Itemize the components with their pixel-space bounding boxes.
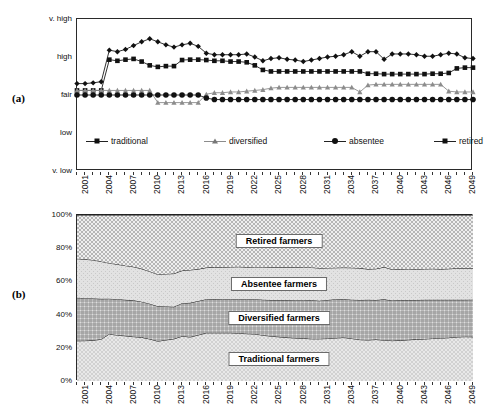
chart-a-xlabel-2040: 2040	[395, 175, 405, 194]
legend-item-diversified[interactable]: diversified	[204, 136, 267, 146]
chart-b-xtick	[440, 382, 441, 385]
chart-a-marker	[187, 41, 192, 46]
chart-a-marker	[147, 36, 152, 41]
chart-b-xtick	[124, 382, 125, 385]
chart-a-marker	[293, 57, 298, 62]
legend-item-retired[interactable]: retired	[434, 136, 483, 146]
legend-marker-diamond-icon	[434, 141, 456, 142]
chart-a-xtick	[270, 172, 271, 175]
chart-a-marker	[74, 81, 79, 86]
band-label-traditional: Traditional farmers	[229, 352, 330, 366]
chart-a-xtick	[173, 172, 174, 175]
chart-a-marker	[292, 97, 298, 103]
chart-b-ytick-60: 60%	[56, 276, 72, 285]
chart-a-xtick	[407, 172, 408, 175]
chart-b-xtick	[343, 382, 344, 385]
chart-a-marker	[82, 92, 88, 98]
chart-a-xtick	[213, 172, 214, 175]
chart-a-marker	[317, 69, 322, 74]
chart-a-marker	[470, 97, 476, 103]
chart-a-marker	[414, 97, 420, 103]
chart-a-xlabel-2007: 2007	[128, 175, 138, 194]
chart-a-marker	[357, 97, 363, 103]
chart-a-marker	[365, 49, 370, 54]
chart-b-xtick	[286, 382, 287, 385]
legend-marker-circle-icon	[324, 141, 346, 142]
chart-b-xlabel-2046: 2046	[443, 385, 453, 404]
chart-b-ytick-20: 20%	[56, 342, 72, 351]
chart-a-marker	[397, 97, 403, 103]
chart-b-xlabel-2013: 2013	[176, 385, 186, 404]
chart-a-xtick	[197, 172, 198, 175]
chart-a-marker	[365, 97, 371, 103]
chart-b-xtick	[141, 382, 142, 385]
chart-a-marker	[455, 66, 460, 71]
chart-a-xtick	[141, 172, 142, 175]
chart-a-marker	[438, 97, 444, 103]
chart-a-marker	[204, 95, 210, 101]
chart-a-marker	[414, 72, 419, 77]
chart-a-marker	[301, 69, 306, 74]
chart-b-xtick	[76, 382, 77, 385]
chart-b-xtick	[92, 382, 93, 385]
chart-b-xtick	[294, 382, 295, 385]
chart-a-marker	[220, 97, 226, 103]
chart-a-xtick	[318, 172, 319, 175]
chart-a-marker	[82, 81, 87, 86]
chart-a-marker	[414, 52, 419, 57]
chart-a-marker	[309, 97, 315, 103]
chart-b-ytick-80: 80%	[56, 243, 72, 252]
legend-item-traditional[interactable]: traditional	[86, 136, 148, 146]
chart-a-xtick	[100, 172, 101, 175]
chart-a-xlabel-2010: 2010	[152, 175, 162, 194]
chart-a-xtick	[262, 172, 263, 175]
chart-a-marker	[139, 59, 144, 64]
chart-a-marker	[252, 97, 258, 103]
chart-a-line	[77, 39, 473, 84]
chart-a-marker	[471, 65, 476, 70]
chart-a-marker	[220, 59, 225, 64]
chart-a-marker	[268, 97, 274, 103]
chart-a-xtick	[367, 172, 368, 175]
legend-label: traditional	[111, 136, 148, 146]
chart-a-xlabel-2001: 2001	[80, 175, 90, 194]
chart-a-marker	[406, 72, 411, 77]
chart-b-xlabel-2037: 2037	[370, 385, 380, 404]
chart-a-marker	[422, 54, 427, 59]
chart-a-marker	[268, 56, 273, 61]
chart-a-marker	[107, 47, 112, 52]
chart-a-marker	[341, 97, 347, 103]
chart-a-marker	[430, 71, 435, 76]
legend-item-absentee[interactable]: absentee	[324, 136, 384, 146]
chart-b-xlabel-2001: 2001	[80, 385, 90, 404]
chart-a-marker	[123, 57, 128, 62]
chart-a-marker	[398, 72, 403, 77]
chart-a-marker	[389, 51, 394, 56]
chart-a-xtick	[359, 172, 360, 175]
chart-b-xtick	[432, 382, 433, 385]
legend-marker-square-icon	[86, 141, 108, 142]
chart-a-marker	[284, 57, 289, 62]
chart-a-xlabel-2046: 2046	[443, 175, 453, 194]
chart-a-marker	[341, 69, 346, 74]
chart-a-marker	[155, 39, 160, 44]
chart-a-marker	[357, 54, 362, 59]
chart-b-xtick	[464, 382, 465, 385]
band-label-retired: Retired farmers	[236, 234, 323, 248]
chart-a-xlabel-2037: 2037	[370, 175, 380, 194]
chart-a-marker	[115, 49, 120, 54]
chart-a-marker	[381, 97, 387, 103]
chart-b-xtick	[335, 382, 336, 385]
chart-b-xtick	[367, 382, 368, 385]
chart-a-marker	[252, 63, 257, 68]
legend-marker-triangle-icon	[204, 141, 226, 142]
chart-a-marker	[228, 52, 233, 57]
chart-a-ytick-vhigh: v. high	[49, 14, 72, 23]
chart-a-marker	[454, 97, 460, 103]
chart-a-marker	[188, 57, 193, 62]
chart-a-xlabel-2043: 2043	[419, 175, 429, 194]
chart-a-xtick	[343, 172, 344, 175]
legend-label: absentee	[349, 136, 384, 146]
chart-a-xtick	[149, 172, 150, 175]
chart-b-xtick	[415, 382, 416, 385]
